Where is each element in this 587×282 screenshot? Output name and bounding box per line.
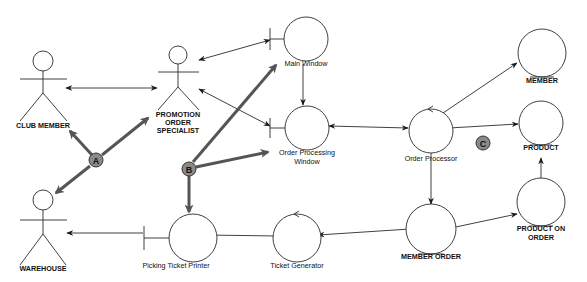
conn-member-order-product-on-order: [451, 214, 517, 228]
callout-a-to-specialist: [102, 118, 148, 155]
actor-warehouse[interactable]: WAREHOUSE: [19, 190, 67, 273]
entity-label: MEMBER ORDER: [401, 252, 462, 261]
conn-order-processor-product: [449, 124, 518, 128]
boundary-picking-ticket-printer[interactable]: Picking Ticket Printer: [142, 214, 217, 270]
entity-member-order[interactable]: MEMBER ORDER: [401, 204, 462, 261]
conn-specialist-order-processing-window: [199, 89, 270, 126]
conn-order-processing-window-order-processor: [329, 126, 408, 128]
robustness-diagram: CLUB MEMBER PROMOTION ORDER SPECIALIST W…: [0, 0, 587, 282]
actor-label: WAREHOUSE: [19, 264, 66, 273]
badge-label: C: [480, 139, 487, 149]
callout-badge-b: B: [182, 162, 196, 176]
actor-label: CLUB MEMBER: [16, 121, 71, 130]
control-label: Order Processor: [405, 154, 458, 163]
badge-label: B: [186, 165, 193, 175]
callout-badge-a: A: [89, 153, 103, 167]
boundary-label-line-1: Order Processing: [279, 148, 335, 157]
badge-label: A: [93, 156, 100, 166]
entity-label: PRODUCT: [523, 143, 559, 152]
actor-club-member[interactable]: CLUB MEMBER: [16, 51, 71, 130]
actor-label-line-3: SPECIALIST: [157, 126, 200, 135]
callout-a-to-warehouse: [56, 166, 90, 193]
control-label: Ticket Generator: [270, 261, 324, 270]
entity-label-line-1: PRODUCT ON: [517, 224, 565, 233]
entity-member[interactable]: MEMBER: [518, 29, 566, 85]
callout-arrows: [56, 65, 276, 212]
boundary-order-processing-window[interactable]: Order Processing Window: [270, 106, 335, 166]
control-ticket-generator[interactable]: Ticket Generator: [270, 211, 324, 270]
entity-label: MEMBER: [526, 76, 559, 85]
entity-label-line-2: ORDER: [528, 233, 555, 242]
entity-product-on-order[interactable]: PRODUCT ON ORDER: [517, 178, 565, 242]
conn-member-order-ticket-generator: [318, 229, 410, 235]
callout-badge-c: C: [476, 136, 490, 150]
entity-product[interactable]: PRODUCT: [519, 101, 563, 152]
callout-a-to-club-member: [70, 131, 92, 155]
conn-specialist-main-window: [199, 40, 270, 60]
control-order-processor[interactable]: Order Processor: [405, 106, 458, 163]
actor-promotion-order-specialist[interactable]: PROMOTION ORDER SPECIALIST: [156, 46, 200, 135]
callout-b-to-order-processing-window: [196, 152, 268, 167]
boundary-main-window[interactable]: Main Window: [270, 17, 328, 68]
boundary-label-line-2: Window: [294, 157, 320, 166]
conn-order-processor-member: [443, 63, 517, 113]
boundary-label: Picking Ticket Printer: [142, 261, 210, 270]
boundary-label: Main Window: [284, 59, 328, 68]
callout-b-to-main-window: [193, 65, 276, 162]
